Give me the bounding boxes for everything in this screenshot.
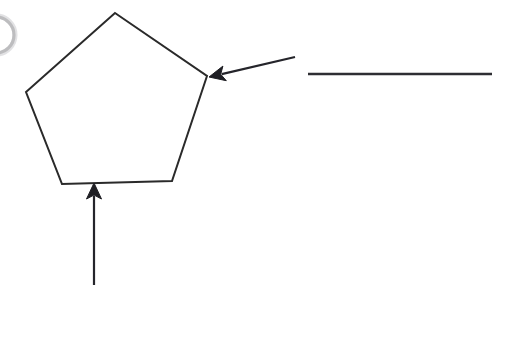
vertex-arrow-label bbox=[215, 30, 335, 46]
cropped-circle-arc bbox=[0, 16, 15, 54]
answer-line-text[interactable] bbox=[308, 52, 492, 72]
vertex-leader-arrow bbox=[209, 57, 295, 81]
worksheet-page bbox=[0, 0, 507, 337]
base-leader-arrow bbox=[87, 183, 102, 285]
pentagon-outline bbox=[26, 13, 207, 184]
diagram-canvas bbox=[0, 0, 507, 337]
base-arrow-label bbox=[100, 292, 280, 308]
